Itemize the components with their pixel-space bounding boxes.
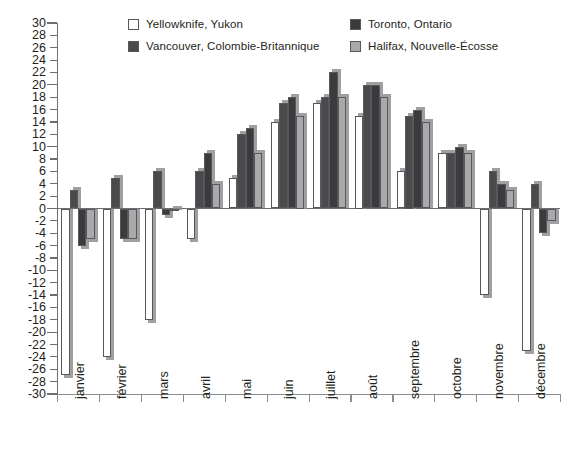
y-axis-tick bbox=[50, 307, 57, 308]
y-axis-tick bbox=[50, 196, 57, 197]
bar[interactable] bbox=[279, 103, 287, 208]
bar[interactable] bbox=[187, 209, 195, 240]
bar[interactable] bbox=[497, 184, 505, 209]
bar[interactable] bbox=[103, 209, 111, 357]
y-axis-tick bbox=[50, 369, 57, 370]
bar[interactable] bbox=[237, 134, 245, 208]
x-axis-category-label: juillet bbox=[325, 399, 354, 412]
x-axis-category-text: juin bbox=[283, 380, 296, 399]
y-axis-tick bbox=[50, 171, 57, 172]
bar[interactable] bbox=[170, 209, 178, 211]
bar[interactable] bbox=[78, 209, 86, 246]
y-axis-tick bbox=[50, 319, 57, 320]
y-axis-tick bbox=[50, 35, 57, 36]
bar[interactable] bbox=[455, 147, 463, 209]
x-axis-tick bbox=[57, 394, 58, 402]
bar[interactable] bbox=[363, 85, 371, 209]
x-axis-category-text: novembre bbox=[493, 343, 506, 399]
y-axis-tick bbox=[47, 393, 57, 394]
y-axis-tick bbox=[50, 344, 57, 345]
bar[interactable] bbox=[296, 116, 304, 209]
x-axis-category-label: mars bbox=[158, 399, 186, 412]
y-axis-tick bbox=[50, 72, 57, 73]
x-axis-tick bbox=[267, 394, 268, 402]
y-axis-tick bbox=[50, 60, 57, 61]
y-axis-tick bbox=[50, 381, 57, 382]
bar[interactable] bbox=[86, 209, 94, 240]
bar[interactable] bbox=[397, 171, 405, 208]
bar[interactable] bbox=[531, 184, 539, 209]
y-axis-tick bbox=[50, 134, 57, 135]
bar[interactable] bbox=[145, 209, 153, 320]
x-axis-category-text: janvier bbox=[74, 362, 87, 399]
x-axis-category-text: décembre bbox=[535, 343, 548, 399]
plot-area bbox=[57, 23, 559, 394]
x-axis-category-label: octobre bbox=[451, 399, 493, 412]
bar[interactable] bbox=[355, 116, 363, 209]
bar[interactable] bbox=[380, 97, 388, 208]
bar[interactable] bbox=[329, 72, 337, 208]
bar[interactable] bbox=[321, 97, 329, 208]
y-axis-tick bbox=[50, 158, 57, 159]
y-axis-tick bbox=[50, 257, 57, 258]
x-axis-category-label: janvier bbox=[74, 399, 111, 412]
bar[interactable] bbox=[229, 178, 237, 209]
y-axis-tick bbox=[50, 97, 57, 98]
y-axis-tick bbox=[50, 183, 57, 184]
y-axis-tick bbox=[47, 332, 57, 333]
x-axis-tick bbox=[225, 394, 226, 402]
bar[interactable] bbox=[547, 209, 555, 221]
bar[interactable] bbox=[464, 153, 472, 209]
bar[interactable] bbox=[405, 116, 413, 209]
bar[interactable] bbox=[522, 209, 530, 351]
x-axis-category-label: mai bbox=[241, 399, 261, 412]
bar[interactable] bbox=[153, 171, 161, 208]
y-axis-tick bbox=[50, 121, 57, 122]
x-axis-category-label: avril bbox=[200, 399, 223, 412]
x-axis-tick bbox=[392, 394, 393, 402]
bar[interactable] bbox=[338, 97, 346, 208]
y-axis-tick bbox=[47, 146, 57, 147]
bar[interactable] bbox=[111, 178, 119, 209]
y-axis-tick bbox=[50, 294, 57, 295]
x-axis-category-label: février bbox=[116, 399, 151, 412]
y-axis-tick bbox=[50, 356, 57, 357]
bar[interactable] bbox=[480, 209, 488, 296]
y-axis-tick bbox=[50, 282, 57, 283]
bar[interactable] bbox=[120, 209, 128, 240]
bar[interactable] bbox=[204, 153, 212, 209]
bar[interactable] bbox=[70, 190, 78, 209]
y-axis-tick bbox=[47, 84, 57, 85]
x-axis-category-text: août bbox=[367, 375, 380, 399]
bar[interactable] bbox=[288, 97, 296, 208]
bar[interactable] bbox=[506, 190, 514, 209]
x-axis-tick bbox=[309, 394, 310, 402]
y-axis-tick bbox=[50, 220, 57, 221]
x-axis-category-text: mai bbox=[241, 379, 254, 399]
y-axis-tick bbox=[50, 245, 57, 246]
y-axis-tick bbox=[47, 270, 57, 271]
bar[interactable] bbox=[313, 103, 321, 208]
y-axis-tick bbox=[50, 109, 57, 110]
x-axis-category-label: décembre bbox=[535, 399, 570, 412]
bar[interactable] bbox=[246, 128, 254, 208]
bar[interactable] bbox=[254, 153, 262, 209]
bar[interactable] bbox=[61, 209, 69, 376]
bar[interactable] bbox=[371, 85, 379, 209]
bar[interactable] bbox=[271, 122, 279, 209]
bar[interactable] bbox=[212, 184, 220, 209]
bar[interactable] bbox=[489, 171, 497, 208]
bar[interactable] bbox=[195, 171, 203, 208]
x-axis-category-text: septembre bbox=[409, 340, 422, 399]
bar[interactable] bbox=[539, 209, 547, 234]
temperature-bar-chart: Yellowknife, YukonVancouver, Colombie-Br… bbox=[0, 0, 570, 459]
bar[interactable] bbox=[162, 209, 170, 215]
bar[interactable] bbox=[422, 122, 430, 209]
bar[interactable] bbox=[438, 153, 446, 209]
x-axis-category-text: avril bbox=[200, 376, 213, 399]
bar[interactable] bbox=[128, 209, 136, 240]
bar[interactable] bbox=[413, 110, 421, 209]
x-axis-category-text: juillet bbox=[325, 371, 338, 400]
bar[interactable] bbox=[447, 153, 455, 209]
x-axis-category-text: février bbox=[116, 364, 129, 399]
